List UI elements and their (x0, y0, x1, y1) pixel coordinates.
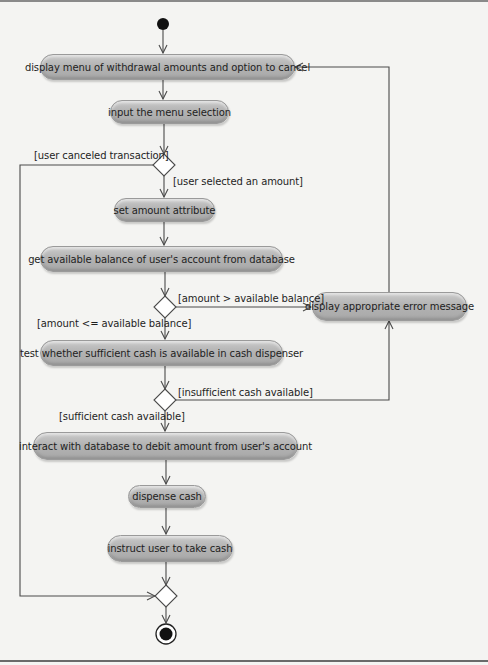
action-input-menu-selection: input the menu selection (110, 100, 229, 124)
action-label: interact with database to debit amount f… (19, 441, 312, 452)
guard-user-canceled: [user canceled transaction] (34, 150, 169, 161)
decision-node-cash (154, 389, 176, 411)
activity-diagram-connectors (0, 0, 488, 665)
action-instruct-take-cash: instruct user to take cash (107, 535, 233, 562)
action-dispense-cash: dispense cash (128, 485, 206, 508)
action-label: input the menu selection (108, 107, 231, 118)
action-display-error-message: display appropriate error message (312, 292, 467, 321)
action-set-amount-attribute: set amount attribute (114, 198, 215, 222)
action-label: dispense cash (132, 491, 202, 502)
guard-insufficient-cash: [insufficient cash available] (178, 387, 313, 398)
guard-amount-greater-than-balance: [amount > available balance] (178, 293, 324, 304)
action-label: display menu of withdrawal amounts and o… (25, 62, 310, 73)
action-label: display appropriate error message (305, 301, 474, 312)
final-state-icon (156, 624, 176, 644)
merge-node (155, 585, 177, 607)
guard-sufficient-cash: [sufficient cash available] (59, 411, 185, 422)
action-label: set amount attribute (114, 205, 216, 216)
action-label: instruct user to take cash (108, 543, 233, 554)
guard-amount-within-balance: [amount <= available balance] (37, 318, 191, 329)
initial-state-icon (157, 18, 169, 30)
action-get-available-balance: get available balance of user's account … (40, 246, 283, 272)
action-display-menu: display menu of withdrawal amounts and o… (40, 54, 295, 80)
action-test-sufficient-cash: test whether sufficient cash is availabl… (40, 340, 283, 366)
guard-user-selected-amount: [user selected an amount] (173, 176, 303, 187)
decision-node-balance (154, 296, 176, 318)
action-label: test whether sufficient cash is availabl… (20, 348, 303, 359)
action-debit-account: interact with database to debit amount f… (33, 432, 298, 460)
page-bottom-rule (0, 660, 488, 662)
action-label: get available balance of user's account … (28, 254, 295, 265)
